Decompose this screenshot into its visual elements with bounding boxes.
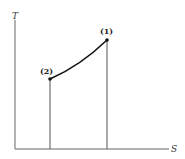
y-axis-label: T <box>12 11 19 21</box>
process-curve <box>50 40 107 79</box>
point-2-label: (2) <box>40 66 53 76</box>
ts-diagram: T S (1) (2) <box>0 0 185 159</box>
point-2-marker <box>48 77 52 81</box>
point-1-marker <box>105 38 109 42</box>
x-axis-label: S <box>171 144 177 154</box>
point-1-label: (1) <box>100 26 113 36</box>
